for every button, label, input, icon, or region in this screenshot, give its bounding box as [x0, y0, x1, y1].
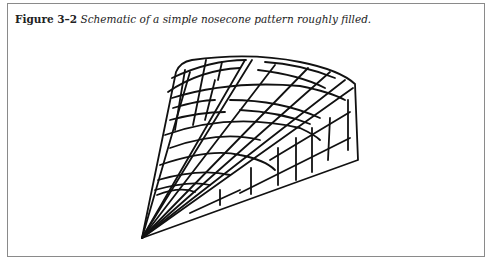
nosecone-illustration — [0, 0, 488, 263]
